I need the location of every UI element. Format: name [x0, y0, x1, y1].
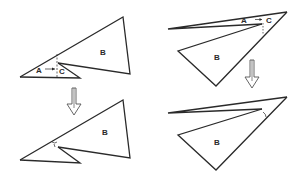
panel-top-right: A C B	[168, 12, 287, 86]
left-down-arrow	[67, 88, 81, 115]
arrowhead-icon	[260, 18, 263, 21]
label-c: C	[59, 67, 65, 76]
panel-top-left: A C B	[20, 17, 130, 78]
arrowhead-icon	[52, 68, 55, 71]
angle-mark-icon	[52, 142, 57, 143]
label-c: C	[266, 16, 272, 25]
label-b: B	[214, 53, 220, 62]
sliver-a-outline	[168, 97, 287, 113]
right-down-arrow	[245, 60, 259, 88]
label-b: B	[102, 128, 108, 137]
panel-bottom-right: B	[168, 97, 287, 170]
label-b: B	[100, 48, 106, 57]
angle-mark-icon	[263, 112, 266, 117]
label-a: A	[241, 16, 247, 25]
triangle-b-outline	[178, 97, 287, 170]
diagram-canvas: A C B A C B B B	[0, 0, 305, 182]
label-a: A	[36, 66, 42, 75]
angle-tick	[54, 144, 55, 147]
label-b: B	[214, 138, 220, 147]
